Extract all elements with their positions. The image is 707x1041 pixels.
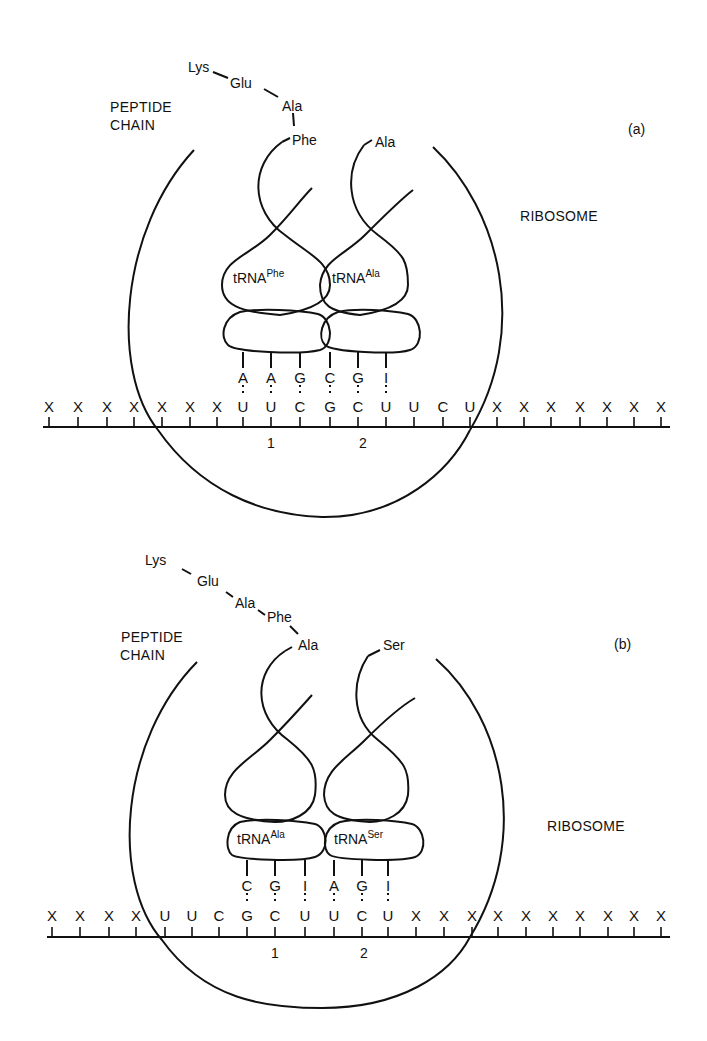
anticodon-a: A A G C G I (238, 369, 388, 386)
panel-a (43, 72, 670, 517)
site-label-b-1: 1 (271, 945, 279, 961)
mrna-base: U (187, 907, 198, 924)
mrna-base: U (300, 907, 311, 924)
anticodon-base: I (384, 369, 388, 386)
peptide-bond-glu-ala (264, 89, 278, 97)
mrna-base: C (270, 907, 281, 924)
anticodon-base: A (329, 877, 339, 894)
mrna-base: X (575, 907, 585, 924)
trna-right-amino-acid-b: Ser (383, 637, 405, 653)
peptide-residue-a-2: Ala (282, 98, 302, 114)
ribosome-outline-left (129, 150, 470, 517)
anticodon-stems-a (243, 352, 386, 368)
peptide-residue-b-1: Glu (197, 573, 219, 589)
panel-label-b: (b) (614, 636, 631, 652)
mrna-base: X (131, 907, 141, 924)
mrna-ticks-a (49, 417, 661, 427)
mrna-base: X (185, 398, 195, 415)
mrna-base: C (438, 398, 449, 415)
trna-left-name-a: tRNAPhe (233, 268, 285, 286)
mrna-base: X (656, 907, 666, 924)
anticodon-base: G (356, 877, 368, 894)
mrna-base: X (493, 907, 503, 924)
mrna-bases-a: X X X X X X X U U C G C U U C U X X X X … (44, 398, 666, 415)
mrna-base: U (381, 398, 392, 415)
anticodon-base: G (352, 369, 364, 386)
peptide-bond-ala-phe (293, 113, 294, 126)
anticodon-base: G (269, 877, 281, 894)
mrna-base: X (104, 907, 114, 924)
mrna-base: U (329, 907, 340, 924)
peptide-bond-b-3 (258, 610, 265, 615)
mrna-base: X (575, 398, 585, 415)
mrna-base: U (238, 398, 249, 415)
mrna-base: X (47, 907, 57, 924)
peptide-chain-label-b-1: PEPTIDE (121, 629, 183, 645)
base-pair-dots-b (247, 893, 388, 905)
trna-phe-strand-1 (222, 142, 330, 315)
peptide-residue-b-2: Ala (235, 595, 255, 611)
mrna-base: G (324, 398, 336, 415)
mrna-base: X (629, 907, 639, 924)
mrna-base: X (602, 398, 612, 415)
ribosome-outline-left-b (130, 662, 470, 1008)
mrna-ticks-b (52, 927, 661, 937)
translation-diagram: Lys Glu Ala Phe Ala PEPTIDE CHAIN RIBOSO… (0, 0, 707, 1041)
mrna-base: X (411, 907, 421, 924)
mrna-base: C (214, 907, 225, 924)
anticodon-b: C G I A G I (242, 877, 391, 894)
trna-ser-b-strand (324, 656, 415, 822)
ribosome-outline-right (433, 147, 502, 430)
mrna-base: C (295, 398, 306, 415)
mrna-base: U (266, 398, 277, 415)
trna-right-amino-acid-a: Ala (375, 134, 395, 150)
trna-ala-b-strand (225, 651, 316, 822)
trna-ala-lower-loop (321, 310, 420, 353)
anticodon-base: G (294, 369, 306, 386)
peptide-residue-a-3: Phe (292, 132, 317, 148)
peptide-chain-label-b-2: CHAIN (120, 647, 165, 663)
ribosome-label-b: RIBOSOME (547, 818, 625, 834)
anticodon-base: C (242, 877, 253, 894)
anticodon-base: I (386, 877, 390, 894)
mrna-base: U (160, 907, 171, 924)
mrna-base: X (75, 907, 85, 924)
mrna-base: X (492, 398, 502, 415)
mrna-base: X (603, 907, 613, 924)
anticodon-base: I (303, 877, 307, 894)
peptide-bond-b-1 (182, 569, 191, 574)
trna-right-name-b: tRNASer (334, 829, 384, 847)
ribosome-label-a: RIBOSOME (520, 208, 598, 224)
anticodon-base: A (266, 369, 276, 386)
peptide-chain-label-a-2: CHAIN (110, 117, 155, 133)
mrna-base: X (548, 907, 558, 924)
peptide-residue-a-1: Glu (230, 75, 252, 91)
mrna-base: X (102, 398, 112, 415)
trna-right-name-a: tRNAAla (332, 268, 380, 286)
mrna-bases-b: X X X X U U C G C U U C U X X X X X X X … (47, 907, 666, 924)
mrna-base: X (439, 907, 449, 924)
trna-ser-b-link (368, 650, 380, 656)
peptide-bond-lys-glu (213, 72, 228, 78)
mrna-base: C (353, 398, 364, 415)
trna-ala-b-link (285, 647, 292, 651)
mrna-base: X (212, 398, 222, 415)
mrna-base: C (357, 907, 368, 924)
site-label-b-2: 2 (360, 945, 368, 961)
mrna-base: X (73, 398, 83, 415)
trna-phe-lower-loop (224, 310, 330, 353)
mrna-base: G (241, 907, 253, 924)
mrna-base: X (44, 398, 54, 415)
peptide-residue-b-3: Phe (267, 609, 292, 625)
mrna-base: U (465, 398, 476, 415)
trna-phe-link (282, 138, 290, 142)
site-label-a-2: 2 (359, 435, 367, 451)
mrna-base: X (129, 398, 139, 415)
peptide-chain-label-a-1: PEPTIDE (110, 99, 172, 115)
peptide-residue-b-0: Lys (145, 552, 166, 568)
mrna-base: X (157, 398, 167, 415)
peptide-residue-b-4: Ala (298, 637, 318, 653)
trna-ala-strand-1 (320, 145, 413, 315)
peptide-residue-a-0: Lys (188, 59, 209, 75)
mrna-base: U (409, 398, 420, 415)
